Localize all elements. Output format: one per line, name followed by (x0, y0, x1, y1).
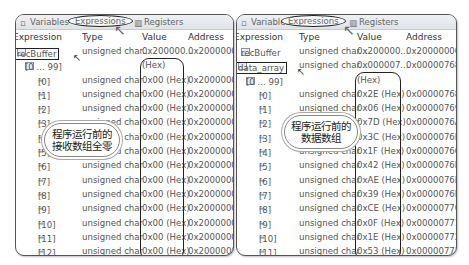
table-row[interactable]: ⇛[8]unsigned char0x00 (Hex)0x20000008 (16, 187, 233, 201)
table-row[interactable]: ⇛[10]unsigned char0x00 (Hex)0x2000000A (16, 216, 233, 230)
col-expression[interactable]: Expression (15, 32, 62, 42)
variables-icon: ▫ (241, 18, 249, 25)
address-cell: 0x20000007 (188, 175, 234, 185)
index-label: [9] (38, 205, 50, 215)
table-row[interactable]: ⇛[5]unsigned char0x42 (Hex)0x0000076D (237, 158, 456, 172)
tree-row-range[interactable]: ▾ [0 ... 99] (Hex) (16, 58, 233, 72)
table-row[interactable]: ⇛[11]unsigned char0x00 (Hex)0x2000000B (16, 230, 233, 244)
address-cell: 0x20000006 (188, 160, 234, 170)
address-cell: 0x00000768 (406, 89, 457, 99)
address-cell: 0x2000000B (188, 232, 234, 242)
index-label: [4] (259, 148, 271, 158)
address-cell: 0x20000000 (406, 46, 457, 56)
type-cell: unsigned char (82, 103, 143, 113)
address-cell: 0x0000076F (406, 189, 457, 199)
table-row[interactable]: ⇛[0]unsigned char0x2E (Hex)0x00000768 (237, 87, 456, 101)
table-row[interactable]: ⇛[1]unsigned char0x00 (Hex)0x20000001 (16, 87, 233, 101)
table-row[interactable]: ⇛[7]unsigned char0x39 (Hex)0x0000076F (237, 187, 456, 201)
callout-line: 程序运行前的 (291, 120, 351, 132)
tree-row-recbuffer[interactable]: recBuffer unsigned char... 0x200000... 0… (237, 44, 456, 58)
table-row[interactable]: ⇛[9]unsigned char0x00 (Hex)0x20000009 (16, 201, 233, 215)
table-row[interactable]: ⇛[0]unsigned char0x00 (Hex)0x20000000 (16, 73, 233, 87)
table-row[interactable]: ⇛[12]unsigned char0x00 (Hex)0x2000000C (16, 244, 233, 256)
address-cell: 0x00000768 (406, 60, 457, 70)
index-label: [7] (259, 191, 271, 201)
type-cell: unsigned char (299, 246, 360, 256)
tab-registers[interactable]: ▥Registers (134, 17, 183, 27)
value-cell: 0x000007... (357, 60, 409, 70)
index-label: [10] (38, 220, 56, 230)
registers-icon: ▥ (134, 18, 142, 25)
type-cell: unsigned char (299, 175, 360, 185)
address-cell: 0x0000076A (406, 117, 457, 127)
address-cell: 0x00000771 (406, 218, 457, 228)
index-label: [12] (38, 248, 56, 256)
table-row[interactable]: ⇛[8]unsigned char0xCE (Hex)0x00000770 (237, 201, 456, 215)
address-cell: 0x00000769 (406, 103, 457, 113)
mouse-cursor-icon: ↖ (297, 66, 305, 77)
col-type[interactable]: Type (82, 32, 103, 42)
col-expression[interactable]: Expression (236, 32, 283, 42)
index-label: [1] (259, 105, 271, 115)
index-label: [3] (259, 134, 271, 144)
index-label: [6] (38, 162, 50, 172)
address-cell: 0x20000005 (188, 146, 234, 156)
tree-row-data-array[interactable]: ▾ data_array unsigned char... 0x000007..… (237, 58, 456, 72)
table-row[interactable]: ⇛[1]unsigned char0x06 (Hex)0x00000769 (237, 101, 456, 115)
tab-registers[interactable]: ▥Registers (349, 17, 398, 27)
tab-variables[interactable]: ▫Variables (20, 17, 69, 27)
annotation-arrow-icon: ↖ (114, 22, 126, 38)
index-label: [5] (259, 162, 271, 172)
address-cell: 0x00000770 (406, 203, 457, 213)
index-label: [8] (38, 191, 50, 201)
table-row[interactable]: ⇛[2]unsigned char0x00 (Hex)0x20000002 (16, 101, 233, 115)
address-cell: 0x2000000A (188, 218, 234, 228)
col-address[interactable]: Address (406, 32, 442, 42)
index-label: [11] (259, 248, 277, 256)
index-label: [11] (38, 234, 56, 244)
type-cell: unsigned char (82, 189, 143, 199)
type-cell: unsigned char (82, 218, 143, 228)
annotation-arrow-icon: ↖ (343, 22, 355, 38)
index-label: [10] (259, 234, 277, 244)
type-cell: unsigned char (82, 232, 143, 242)
col-address[interactable]: Address (188, 32, 224, 42)
element-rows: ⇛[0]unsigned char0x2E (Hex)0x00000768⇛[1… (237, 87, 456, 256)
index-label: [0] (259, 91, 271, 101)
address-cell: 0x20000000 (188, 75, 234, 85)
tree-row-range[interactable]: ▾ [0 ... 99] (Hex) (237, 73, 456, 87)
table-row[interactable]: ⇛[6]unsigned char0xAE (Hex)0x0000076E (237, 173, 456, 187)
address-cell: 0x20000001 (188, 89, 234, 99)
index-label: [9] (259, 220, 271, 230)
value-highlight-box (140, 58, 184, 256)
callout-line: 程序运行前的 (51, 128, 113, 140)
range-label: [0 ... 99] (25, 62, 62, 72)
address-cell: 0x00000772 (406, 232, 457, 242)
table-row[interactable]: ⇛[11]unsigned char0x53 (Hex)0x00000773 (237, 244, 456, 256)
type-cell: unsigned char (299, 103, 360, 113)
value-highlight-box (355, 72, 401, 256)
address-cell: 0x0000076D (406, 160, 457, 170)
col-type[interactable]: Type (299, 32, 320, 42)
col-value[interactable]: Value (357, 32, 382, 42)
address-cell: 0x20000002 (188, 103, 234, 113)
mouse-cursor-icon: ↖ (73, 52, 81, 63)
type-cell: unsigned char (82, 203, 143, 213)
col-value[interactable]: Value (142, 32, 167, 42)
address-cell: 0x20000008 (188, 189, 234, 199)
tree-row-root[interactable]: ▾ recBuffer unsigned char... 0x200000...… (16, 44, 233, 58)
callout-line: 接收数组全零 (51, 140, 113, 152)
expression-name: recBuffer (241, 48, 280, 58)
table-row[interactable]: ⇛[6]unsigned char0x00 (Hex)0x20000006 (16, 158, 233, 172)
value-cell: 0x200000... (357, 46, 409, 56)
index-label: [1] (38, 91, 50, 101)
index-label: [7] (38, 177, 50, 187)
type-cell: unsigned char (299, 160, 360, 170)
table-row[interactable]: ⇛[7]unsigned char0x00 (Hex)0x20000007 (16, 173, 233, 187)
address-cell: 0x20000004 (188, 132, 234, 142)
callout-line: 数据数组 (291, 132, 351, 144)
index-label: [2] (38, 105, 50, 115)
table-row[interactable]: ⇛[10]unsigned char0x1E (Hex)0x00000772 (237, 230, 456, 244)
table-row[interactable]: ⇛[9]unsigned char0x0F (Hex)0x00000771 (237, 216, 456, 230)
tab-expressions[interactable]: Expressions (281, 15, 346, 27)
